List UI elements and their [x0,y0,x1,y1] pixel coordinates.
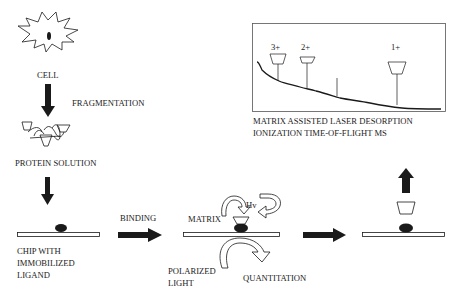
hv-label: Hv [246,200,257,211]
down-arrow-icon [41,177,54,205]
peak-label-3plus: 3+ [271,42,280,53]
matrix-label: MATRIX [188,214,221,225]
cell-label: CELL [37,70,58,81]
cell-icon [18,12,78,52]
right-arrow-icon [303,228,346,242]
maldi-caption-line2: IONIZATION TIME-OF-FLIGHT MS [253,128,387,139]
chip-label-line1: CHIP WITH [17,246,61,257]
fragmentation-label: FRAGMENTATION [72,98,144,109]
up-arrow-icon [398,168,414,193]
peak-2plus-icon [300,57,315,63]
chip-label-line3: LIGAND [17,270,50,281]
maldi-caption-line1: MATRIX ASSISTED LASER DESORPTION [253,116,413,127]
polarized-light-line1: POLARIZED [168,266,216,277]
photon-curved-arrow-icon [258,194,281,218]
peak-label-2plus: 2+ [301,42,310,53]
protein-solution-label: PROTEIN SOLUTION [15,158,96,169]
polarized-light-line2: LIGHT [168,278,194,289]
binding-label: BINDING [120,213,156,224]
right-arrow-icon [118,228,162,242]
quantitation-label: QUANTITATION [243,273,306,284]
peak-label-1plus: 1+ [391,42,400,53]
protein-fragments-icon [22,122,70,146]
matrix-crystal-icon [233,217,249,224]
ms-spectrum-panel [253,24,446,112]
down-arrow-icon [41,84,55,117]
chip-label-line2: IMMOBILIZED [17,258,75,269]
polarized-light-arrow-icon [220,238,270,268]
peak-3plus-icon [270,54,286,64]
chip-with-ligand [18,224,100,237]
desorbed-ion-icon [397,202,415,214]
chip-desorbed [363,202,445,237]
